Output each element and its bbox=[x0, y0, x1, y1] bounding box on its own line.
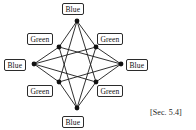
graph-figure: BlueBlueBlueBlueGreenGreenGreenGreen [Se… bbox=[0, 0, 196, 130]
graph-edge bbox=[77, 21, 96, 47]
graph-vertex-right bbox=[119, 62, 124, 67]
node-label-top: Blue bbox=[62, 3, 84, 15]
graph-edge bbox=[77, 82, 96, 108]
node-label-left: Blue bbox=[4, 59, 26, 71]
node-label-inner-nw: Green bbox=[27, 33, 53, 45]
graph-edge bbox=[34, 64, 59, 82]
graph-edge bbox=[96, 64, 121, 82]
node-label-inner-se: Green bbox=[97, 85, 123, 97]
graph-edge bbox=[59, 21, 77, 47]
graph-edge bbox=[96, 47, 121, 64]
node-label-inner-sw: Green bbox=[27, 85, 53, 97]
graph-vertex-bottom bbox=[75, 106, 80, 111]
graph-vertex-left bbox=[32, 62, 37, 67]
graph-edge bbox=[59, 82, 77, 108]
graph-edge bbox=[34, 47, 59, 64]
graph-vertex-inner-ne bbox=[94, 45, 99, 50]
section-reference: [Sec. 5.4] bbox=[150, 108, 182, 118]
graph-vertex-inner-sw bbox=[57, 80, 62, 85]
node-label-right: Blue bbox=[126, 59, 148, 71]
graph-vertex-inner-nw bbox=[57, 45, 62, 50]
node-label-bottom: Blue bbox=[62, 116, 84, 128]
graph-vertex-top bbox=[75, 19, 80, 24]
graph-vertex-inner-se bbox=[94, 80, 99, 85]
node-label-inner-ne: Green bbox=[97, 33, 123, 45]
